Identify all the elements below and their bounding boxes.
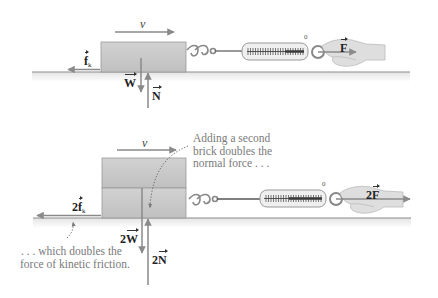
friction-subscript: k [82, 207, 86, 215]
friction-label: fk [84, 55, 92, 69]
ground-shadow [32, 72, 410, 82]
applied-force-symbol: F [372, 189, 379, 201]
spring-scale [242, 43, 308, 60]
velocity-label: v [142, 137, 147, 149]
hand [322, 39, 385, 66]
ground-shadow [33, 218, 411, 228]
annotation-line: . . . which doubles the [20, 245, 130, 258]
brick [101, 42, 186, 72]
weight-label: 2W [120, 233, 138, 245]
diagram-stage: v fk W N 0 F v 2fk 2W 2N 0 2F Adding a s… [0, 0, 438, 298]
friction-subscript: k [88, 61, 92, 69]
weight-symbol: W [124, 77, 136, 89]
annotation-friction: . . . which doubles the force of kinetic… [20, 245, 130, 270]
spring-scale [260, 190, 326, 207]
top-panel [32, 32, 410, 108]
annotation-normal-force: Adding a second brick doubles the normal… [193, 132, 272, 170]
scale-zero-label: 0 [304, 34, 308, 41]
hook [189, 195, 218, 205]
annotation-line: Adding a second [193, 132, 272, 145]
weight-symbol: W [126, 233, 138, 245]
brick-bottom [102, 188, 186, 218]
annotation-line: force of kinetic friction. [20, 258, 130, 271]
applied-force-label: F [340, 42, 347, 54]
normal-symbol: N [158, 254, 167, 266]
friction-symbol: f [78, 201, 82, 213]
weight-label: W [124, 77, 136, 89]
normal-symbol: N [152, 90, 161, 102]
applied-force-symbol: F [340, 42, 347, 54]
normal-label: N [152, 90, 161, 102]
normal-label: 2N [152, 254, 167, 266]
hook [187, 46, 216, 56]
friction-symbol: f [84, 55, 88, 67]
scale-zero-label: 0 [322, 181, 326, 188]
annotation-line: brick doubles the [193, 145, 272, 158]
annotation-line: normal force . . . [193, 157, 272, 170]
friction-label: 2fk [72, 201, 86, 215]
velocity-label: v [140, 18, 145, 30]
applied-force-label: 2F [366, 189, 379, 201]
brick-top [102, 158, 186, 188]
